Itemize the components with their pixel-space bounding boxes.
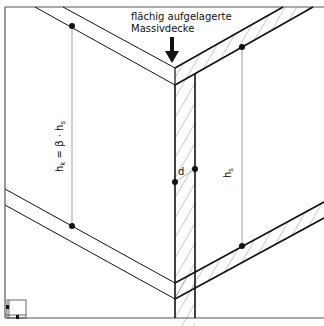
dimension-hk [69, 23, 75, 229]
wall-slab-diagram: flächig aufgelagerte Massivdecke hk = β … [0, 0, 324, 326]
label-d: d [178, 166, 184, 177]
label-hs: hs [222, 168, 235, 178]
caption-line-2: Massivdecke [131, 23, 194, 34]
corner-marker-icon [5, 300, 26, 319]
load-arrow-icon [165, 37, 179, 63]
lower-right-slab-hatch [175, 202, 324, 299]
caption-line-1: flächig aufgelagerte [131, 11, 232, 22]
drawing-frame [5, 7, 324, 318]
lower-left-slab [5, 189, 175, 299]
label-hk-formula: hk = β · hs [54, 121, 67, 172]
dimension-hs [239, 44, 245, 249]
